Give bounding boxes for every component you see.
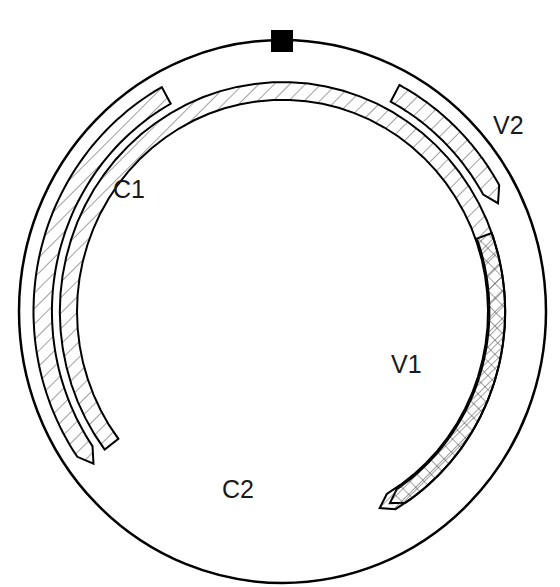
orf-c2-arrow	[60, 82, 505, 509]
genome-map	[0, 0, 560, 587]
orf-label-c1: C1	[113, 177, 145, 202]
orf-label-v1: V1	[391, 352, 422, 377]
orf-label-v2: V2	[493, 113, 524, 138]
orf-label-c2: C2	[222, 477, 254, 502]
origin-marker	[271, 30, 293, 52]
genome-circle	[19, 40, 546, 583]
orf-layer	[34, 82, 506, 509]
